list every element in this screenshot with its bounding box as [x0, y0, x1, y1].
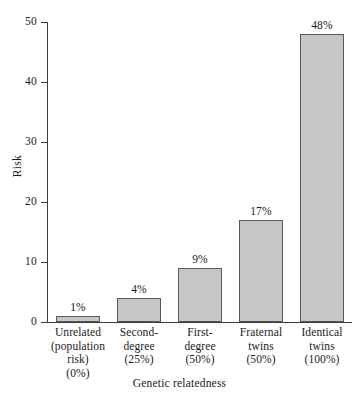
y-axis-title: Risk	[11, 136, 23, 196]
bar-identical-twins	[300, 34, 344, 322]
y-tick-label-20: 20	[0, 196, 37, 208]
y-axis-line	[47, 22, 48, 322]
y-tick-label-50: 50	[0, 16, 37, 28]
bar-value-second-degree: 4%	[117, 284, 161, 296]
x-category-label-fraternal-twins: Fraternal twins (50%)	[226, 326, 296, 367]
y-tick-50	[41, 22, 47, 23]
y-tick-10	[41, 262, 47, 263]
y-tick-label-0: 0	[0, 316, 37, 328]
x-category-line: (50%)	[165, 353, 235, 367]
x-category-line: (50%)	[226, 353, 296, 367]
x-category-line: Identical	[287, 326, 357, 340]
bar-value-identical-twins: 48%	[300, 20, 344, 32]
y-tick-40	[41, 82, 47, 83]
x-category-line: (25%)	[104, 353, 174, 367]
x-category-line: twins	[287, 340, 357, 354]
x-axis-line	[47, 322, 352, 323]
y-tick-label-40: 40	[0, 76, 37, 88]
bar-unrelated	[56, 316, 100, 322]
x-category-label-first-degree: First- degree (50%)	[165, 326, 235, 367]
bar-second-degree	[117, 298, 161, 322]
x-category-label-identical-twins: Identical twins (100%)	[287, 326, 357, 367]
x-category-line: Fraternal	[226, 326, 296, 340]
bar-fraternal-twins	[239, 220, 283, 322]
bar-first-degree	[178, 268, 222, 322]
bar-value-first-degree: 9%	[178, 254, 222, 266]
bar-value-fraternal-twins: 17%	[239, 206, 283, 218]
x-category-line: (100%)	[287, 353, 357, 367]
x-category-line: (0%)	[38, 367, 118, 381]
bar-value-unrelated: 1%	[56, 302, 100, 314]
x-category-line: twins	[226, 340, 296, 354]
y-tick-30	[41, 142, 47, 143]
x-category-line: degree	[104, 340, 174, 354]
x-category-line: Second-	[104, 326, 174, 340]
bar-chart: 50 40 30 20 10 0 Risk Genetic relatednes…	[0, 0, 359, 398]
y-tick-20	[41, 202, 47, 203]
y-tick-label-10: 10	[0, 256, 37, 268]
x-category-line: First-	[165, 326, 235, 340]
x-category-label-second-degree: Second- degree (25%)	[104, 326, 174, 367]
x-category-line: degree	[165, 340, 235, 354]
